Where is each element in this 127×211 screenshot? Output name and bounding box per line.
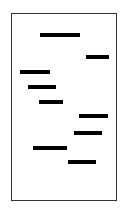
band-bar — [20, 70, 50, 74]
band-bar — [33, 146, 67, 150]
band-bar — [74, 131, 102, 135]
band-bar — [68, 160, 96, 164]
band-bar — [79, 114, 108, 118]
diagram-frame — [11, 13, 117, 201]
band-bar — [39, 100, 63, 104]
band-bar — [40, 33, 80, 37]
band-bar — [28, 85, 56, 89]
band-bar — [86, 55, 109, 59]
